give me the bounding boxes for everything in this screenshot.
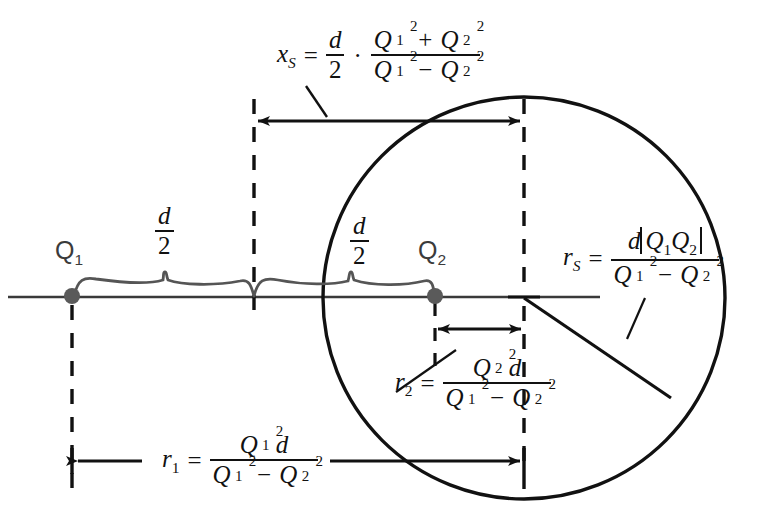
formula-xs-factor-num: d — [326, 27, 345, 54]
charge-label-1-text: Q — [55, 236, 74, 264]
formula-r1-lhs-sub: 1 — [172, 459, 180, 476]
charge-dot-1 — [64, 288, 80, 304]
formula-r1-den-left: Q21Q — [213, 462, 249, 488]
formula-r1-den-op: − — [255, 461, 273, 488]
brace-right-denominator: 2 — [350, 240, 369, 269]
xs-leader-line — [306, 86, 327, 117]
formula-r1-den-right: Q22Q — [279, 462, 315, 488]
formula-r2-den-op: − — [488, 384, 506, 411]
brace-left-denominator: 2 — [155, 230, 174, 259]
charge-label-1-sub: 1 — [74, 251, 83, 268]
formula-r1-lhs: r — [162, 445, 172, 472]
formula-xs-dot: · — [350, 43, 364, 68]
formula-r2-den-right: Q22Q — [512, 385, 548, 411]
formula-xs-lhs: x — [277, 40, 288, 67]
formula-r1: r1 = Q21Qd Q21Q − Q22Q — [162, 432, 318, 489]
charge-label-2-text: Q — [418, 236, 437, 264]
formula-rs-num-d: d — [628, 227, 641, 254]
charge-label-1: Q1 — [55, 238, 83, 268]
charge-label-2: Q2 — [418, 238, 446, 268]
brace-right-path — [254, 272, 435, 296]
formula-rs-lhs-sub: S — [573, 257, 581, 274]
formula-rs: rS = dQ1Q2 Q21Q − Q22Q — [563, 228, 719, 289]
rs-leader-line — [627, 298, 645, 339]
formula-xs-factor-den: 2 — [326, 54, 345, 83]
formula-rs-den-right: Q22Q — [680, 262, 716, 288]
diagram-canvas: Q1 Q2 d 2 d 2 xS = d 2 · Q21Q + — [0, 0, 767, 527]
formula-rs-num-q2-sub: 2 — [689, 241, 697, 258]
formula-r2: r2 = Q22Qd Q21Q − Q22Q — [395, 355, 551, 412]
charge-label-2-sub: 2 — [437, 251, 446, 268]
brace-right-numerator: d — [350, 213, 369, 240]
formula-rs-den-left: Q21Q — [614, 262, 650, 288]
formula-r2-equals: = — [418, 371, 436, 396]
formula-r1-equals: = — [185, 448, 203, 473]
formula-rs-equals: = — [586, 246, 604, 271]
formula-rs-num-q2: Q — [671, 227, 689, 254]
brace-label-right: d 2 — [350, 213, 369, 270]
formula-r2-lhs-sub: 2 — [405, 382, 413, 399]
brace-left-path — [74, 272, 254, 296]
brace-label-left: d 2 — [155, 203, 174, 260]
formula-r2-lhs: r — [395, 368, 405, 395]
formula-xs-num-left: Q21Q — [374, 27, 410, 53]
formula-xs: xS = d 2 · Q21Q + Q22Q Q21Q − Q22Q — [277, 27, 480, 84]
brace-left-numerator: d — [155, 203, 174, 230]
formula-r2-num-q: Q22Q — [473, 355, 509, 381]
formula-xs-equals: = — [302, 43, 320, 68]
formula-xs-num-right: Q22Q — [441, 27, 477, 53]
formula-rs-abs-group: Q1Q2 — [640, 227, 702, 254]
formula-xs-den-op: − — [416, 56, 434, 83]
formula-rs-lhs: r — [563, 243, 573, 270]
formula-rs-den-op: − — [656, 261, 674, 288]
formula-r2-den-left: Q21Q — [446, 385, 482, 411]
formula-xs-den-right: Q22Q — [441, 57, 477, 83]
formula-xs-num-op: + — [416, 26, 434, 53]
formula-xs-den-left: Q21Q — [374, 57, 410, 83]
charge-dot-2 — [427, 288, 443, 304]
formula-r1-num-q: Q21Q — [240, 432, 276, 458]
formula-rs-num-q1: Q — [645, 227, 663, 254]
formula-xs-lhs-sub: S — [288, 54, 296, 71]
